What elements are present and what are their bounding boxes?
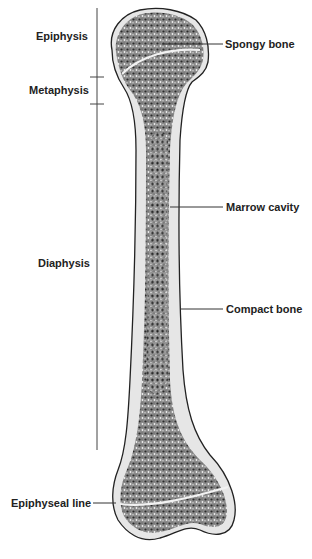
label-epiphyseal-line: Epiphyseal line xyxy=(11,497,91,509)
label-diaphysis: Diaphysis xyxy=(38,257,90,269)
cropped-caption xyxy=(40,553,300,559)
region-bracket xyxy=(90,8,104,450)
label-epiphysis: Epiphysis xyxy=(36,30,88,42)
label-compact-bone: Compact bone xyxy=(226,303,302,315)
label-marrow-cavity: Marrow cavity xyxy=(226,201,299,213)
label-metaphysis: Metaphysis xyxy=(29,84,89,96)
label-spongy-bone: Spongy bone xyxy=(225,38,295,50)
